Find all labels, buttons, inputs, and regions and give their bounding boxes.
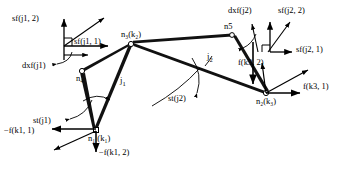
n2-diagonal-arrow bbox=[266, 70, 308, 93]
arc-label-st-j1: st(j1) bbox=[33, 116, 51, 125]
j2-diagonal-arrow bbox=[268, 22, 290, 52]
frame-label-sf-j2-1: sf(j2, 1) bbox=[296, 45, 323, 54]
frame-label-sf-j2-2: sf(j2, 2) bbox=[278, 6, 305, 15]
diagram-canvas: n₁ (k₁) n₄ n₃(k₂) n5 n₂(k₃) j1 j2 st(j1)… bbox=[0, 0, 350, 170]
node-marker-n5 bbox=[230, 33, 235, 38]
joint-label-j2: j2 bbox=[207, 52, 213, 63]
member-n1-n3 bbox=[94, 45, 132, 130]
node-marker-n3 bbox=[128, 41, 133, 46]
force-label-neg-f-k1-2: −f(k1, 2) bbox=[99, 148, 129, 157]
member-group bbox=[80, 34, 269, 131]
frame-label-f-k3-2: f(k3, 2) bbox=[238, 58, 264, 67]
arc-label-st-j2: st(j2) bbox=[168, 94, 186, 103]
force-vectors-n2 bbox=[262, 63, 308, 93]
joint-label-j2-sub: 2 bbox=[209, 56, 212, 63]
member-n3-n5 bbox=[133, 34, 232, 44]
diagram-vector-layer bbox=[0, 0, 350, 170]
frame-label-sf-j1-2: sf(j1, 2) bbox=[12, 14, 39, 23]
force-label-f-k3-1: f(k3, 1) bbox=[303, 82, 329, 91]
node-label-n3: n₃(k₂) bbox=[121, 30, 141, 39]
joint-label-j1: j1 bbox=[120, 76, 126, 87]
force-label-neg-f-k1-1: −f(k1, 1) bbox=[4, 126, 34, 135]
node-label-n2: n₂(k₃) bbox=[256, 97, 276, 106]
joint-label-j1-sub: 1 bbox=[122, 80, 125, 87]
frame-label-dxf-j2: dxf(j2) bbox=[228, 6, 252, 15]
node-label-n5: n5 bbox=[224, 22, 233, 31]
frame-label-sf-j1-1: sf(j1, 1) bbox=[74, 37, 101, 46]
local-frame-j2-vectors bbox=[243, 22, 292, 84]
node-label-n1: n₁ (k₁) bbox=[88, 134, 110, 143]
frame-label-dxf-j1: dxf(j1) bbox=[22, 61, 46, 70]
node-label-n4: n₄ bbox=[76, 74, 83, 83]
